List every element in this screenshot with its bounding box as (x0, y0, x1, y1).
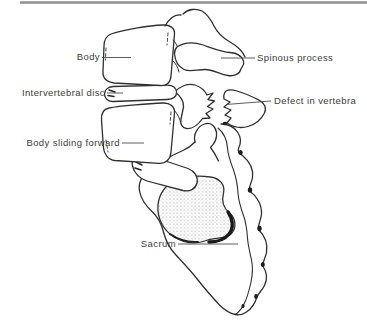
label-spinous-process: Spinous process (257, 52, 333, 63)
label-intervertebral-disc: Intervertebral disc (22, 87, 105, 98)
label-body-sliding-forward: Body sliding forward (26, 137, 120, 148)
l4-spinous-process-shape (174, 43, 243, 76)
figure-canvas: Body Spinous process Intervertebral disc… (0, 0, 367, 323)
l4-body-shape (103, 25, 175, 86)
label-body: Body (77, 51, 100, 62)
l5-body-shape (101, 103, 174, 163)
label-defect-in-vertebra: Defect in vertebra (274, 95, 356, 106)
bone-outlines (101, 9, 266, 314)
spine-illustration (0, 0, 367, 323)
label-sacrum: Sacrum (141, 238, 176, 249)
detached-fragment (224, 90, 266, 127)
